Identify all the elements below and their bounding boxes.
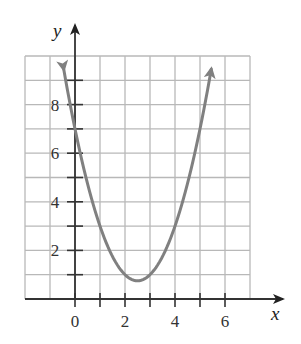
x-tick-label: 6 xyxy=(221,312,230,331)
y-tick-label: 6 xyxy=(51,144,60,163)
axes xyxy=(25,25,283,299)
x-tick-label: 4 xyxy=(171,312,180,331)
parabola-curve xyxy=(64,69,212,280)
parabola-chart: 02462468 x y xyxy=(0,0,301,344)
x-tick-label: 2 xyxy=(121,312,130,331)
y-tick-label: 4 xyxy=(51,193,60,212)
y-axis-label: y xyxy=(51,20,62,41)
grid xyxy=(25,56,250,299)
y-tick-label: 8 xyxy=(51,96,60,115)
tick-labels: 02462468 xyxy=(51,96,230,331)
x-axis-label: x xyxy=(270,303,280,324)
y-tick-label: 2 xyxy=(51,241,60,260)
x-tick-label: 0 xyxy=(71,312,80,331)
